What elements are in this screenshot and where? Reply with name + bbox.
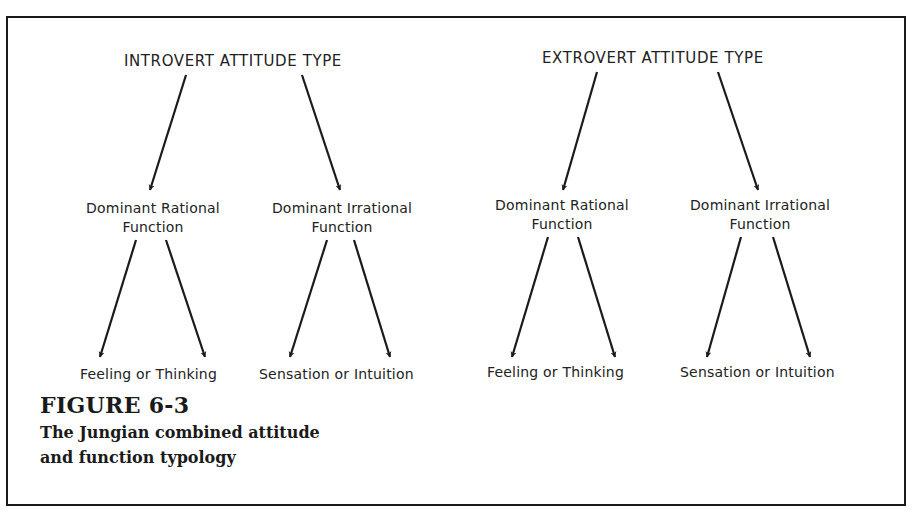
arrow-extro-rational-left (512, 237, 548, 357)
arrow-extro-irrational-right (773, 237, 810, 357)
introvert-header: INTROVERT ATTITUDE TYPE (124, 52, 342, 70)
node-label-line2: Function (78, 218, 228, 237)
node-label-line1: Dominant Irrational (262, 199, 422, 218)
node-label-line2: Function (262, 218, 422, 237)
arrow-extro-irrational-left (707, 237, 741, 357)
extrovert-irrational-node: Dominant Irrational Function (680, 196, 840, 234)
figure-number: FIGURE 6-3 (40, 392, 320, 418)
arrow-intro-irrational-left (290, 240, 327, 357)
introvert-rational-outcome: Feeling or Thinking (80, 366, 217, 382)
node-label-line2: Function (680, 215, 840, 234)
caption-line-2: and function typology (40, 445, 320, 470)
extrovert-header: EXTROVERT ATTITUDE TYPE (542, 49, 764, 67)
arrow-introvert-to-irrational (302, 75, 340, 190)
arrow-intro-rational-right (166, 240, 205, 357)
extrovert-rational-node: Dominant Rational Function (487, 196, 637, 234)
arrow-extrovert-to-rational (563, 72, 597, 190)
arrow-intro-rational-left (100, 240, 136, 357)
node-label-line1: Dominant Rational (487, 196, 637, 215)
node-label-line1: Dominant Rational (78, 199, 228, 218)
extrovert-rational-outcome: Feeling or Thinking (487, 364, 624, 380)
arrow-introvert-to-rational (150, 75, 186, 190)
arrow-extrovert-to-irrational (718, 72, 758, 190)
introvert-rational-node: Dominant Rational Function (78, 199, 228, 237)
arrow-intro-irrational-right (354, 240, 390, 357)
node-label-line2: Function (487, 215, 637, 234)
introvert-irrational-outcome: Sensation or Intuition (259, 366, 414, 382)
figure-caption: FIGURE 6-3 The Jungian combined attitude… (40, 392, 320, 470)
caption-line-1: The Jungian combined attitude (40, 420, 320, 445)
node-label-line1: Dominant Irrational (680, 196, 840, 215)
introvert-irrational-node: Dominant Irrational Function (262, 199, 422, 237)
extrovert-irrational-outcome: Sensation or Intuition (680, 364, 835, 380)
arrow-extro-rational-right (578, 237, 615, 357)
